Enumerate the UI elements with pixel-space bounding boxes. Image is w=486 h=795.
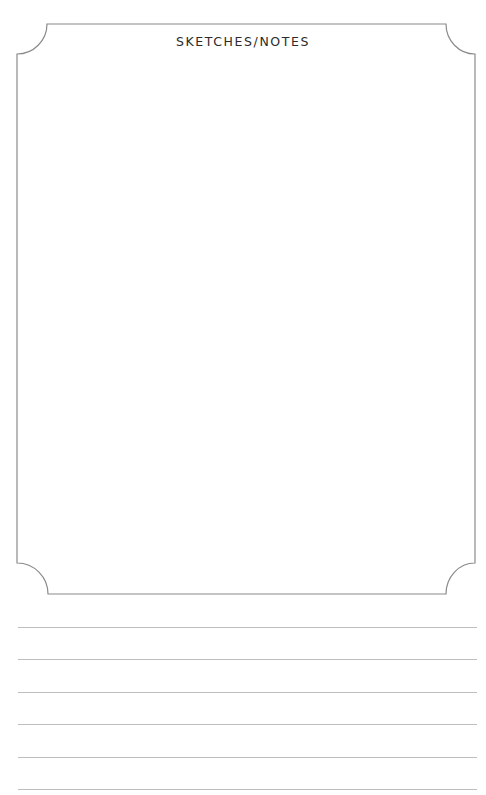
sketch-frame-border — [17, 24, 475, 594]
ruled-line — [18, 757, 477, 758]
page-title: SKETCHES/NOTES — [0, 34, 486, 49]
sketch-frame — [0, 0, 486, 620]
ruled-line — [18, 627, 477, 628]
ruled-line — [18, 789, 477, 790]
ruled-line — [18, 724, 477, 725]
ruled-line — [18, 659, 477, 660]
ruled-line — [18, 692, 477, 693]
